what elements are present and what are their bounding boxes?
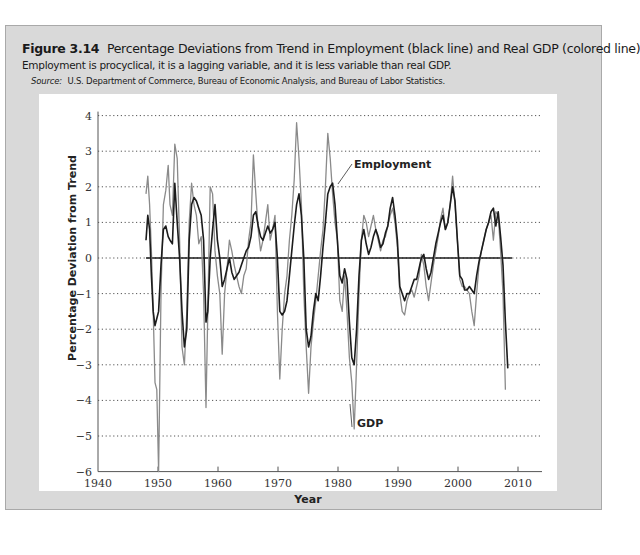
x-tick-label: 1950 <box>144 477 172 490</box>
gdp-label: GDP <box>357 417 383 430</box>
x-tick-label: 1970 <box>264 477 292 490</box>
employment-label: Employment <box>354 158 431 171</box>
y-tick-label: −4 <box>76 394 92 407</box>
x-axis-title: Year <box>293 493 322 506</box>
y-axis-title: Percentage Deviation from Trend <box>66 155 79 361</box>
employment-line <box>146 183 508 368</box>
employment-leader-line <box>338 164 352 184</box>
y-tick-label: 2 <box>85 181 92 194</box>
x-tick-label: 2000 <box>444 477 472 490</box>
gdp-leader-line <box>350 404 352 427</box>
y-tick-label: 1 <box>85 216 92 229</box>
y-tick-label: −5 <box>76 430 92 443</box>
x-tick-label: 1960 <box>204 477 232 490</box>
x-tick-label: 1940 <box>84 477 112 490</box>
x-tick-label: 1990 <box>384 477 412 490</box>
y-tick-label: 4 <box>85 110 92 123</box>
x-tick-label: 1980 <box>324 477 352 490</box>
y-tick-label: 3 <box>85 145 92 158</box>
x-tick-label: 2010 <box>504 477 532 490</box>
y-tick-label: 0 <box>85 252 92 265</box>
gdp-line <box>146 123 505 472</box>
